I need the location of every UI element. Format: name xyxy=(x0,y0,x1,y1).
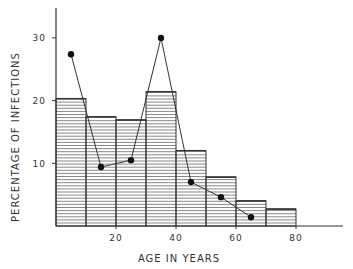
y-tick-label: 10 xyxy=(33,159,46,169)
y-axis: 102030 xyxy=(33,8,56,226)
chart: 102030 20406080 PERCENTAGE OF INFECTIONS… xyxy=(0,0,353,269)
x-tick-label: 20 xyxy=(109,233,122,243)
y-axis-label: PERCENTAGE OF INFECTIONS xyxy=(10,52,21,222)
histogram-bar xyxy=(56,99,86,226)
histogram-bar xyxy=(176,151,206,226)
x-tick-label: 80 xyxy=(289,233,302,243)
data-point-marker xyxy=(158,35,164,41)
x-axis-label: AGE IN YEARS xyxy=(138,253,220,264)
y-tick-label: 20 xyxy=(33,96,46,106)
histogram-bar xyxy=(146,92,176,226)
histogram-bar xyxy=(86,117,116,226)
data-point-marker xyxy=(248,214,254,220)
histogram-bar xyxy=(236,201,266,226)
x-tick-label: 40 xyxy=(169,233,182,243)
data-point-marker xyxy=(128,157,134,163)
y-tick-label: 30 xyxy=(33,33,46,43)
histogram-bar xyxy=(266,209,296,226)
infection-line-series xyxy=(68,35,254,221)
data-point-marker xyxy=(98,164,104,170)
data-point-marker xyxy=(218,194,224,200)
histogram-bar xyxy=(206,177,236,226)
x-axis: 20406080 xyxy=(56,226,343,243)
data-point-marker xyxy=(188,179,194,185)
x-tick-label: 60 xyxy=(229,233,242,243)
histogram-bar xyxy=(116,120,146,226)
data-point-marker xyxy=(68,51,74,57)
